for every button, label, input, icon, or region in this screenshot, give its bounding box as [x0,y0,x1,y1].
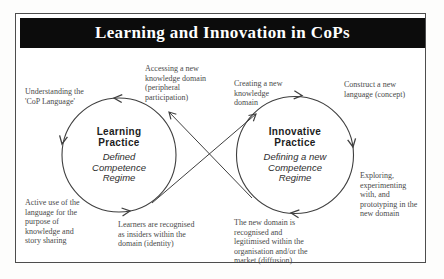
learning-practice-title: Learning Practice [74,126,164,148]
learning-practice-regime: Defined Competence Regime [74,152,164,184]
innovative-practice-title: Innovative Practice [247,126,343,148]
label-understanding-cop-language: Understanding the 'CoP Language' [25,87,135,106]
label-learners-recognised: Learners are recognised as insiders with… [118,220,228,249]
label-active-use-of-language: Active use of the language for the purpo… [25,198,100,246]
learning-practice-caption: Learning Practice Defined Competence Reg… [74,126,164,184]
label-construct-new-language: Construct a new language (concept) [344,80,444,99]
innovative-practice-caption: Innovative Practice Defining a new Compe… [247,126,343,184]
label-creating-knowledge-domain: Creating a new knowledge domain [234,79,344,108]
innovative-to-learning-arrow [169,112,252,198]
innovative-practice-regime: Defining a new Competence Regime [247,152,343,184]
learning-cycle-left-arrow-icon [58,135,67,144]
learning-to-innovative-arrow [152,114,256,203]
label-exploring-prototyping: Exploring, experimenting with, and proto… [360,171,430,219]
label-new-domain-legitimised: The new domain is recognised and legitim… [234,218,344,266]
